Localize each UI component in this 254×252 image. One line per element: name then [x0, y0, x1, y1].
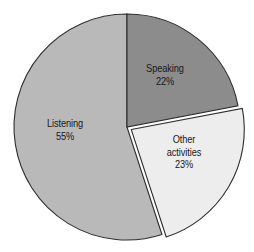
- pie-label-other-activities-name-line2: activities: [152, 146, 215, 159]
- pie-label-speaking-name: Speaking: [128, 62, 202, 75]
- pie-label-listening-value: 55%: [28, 130, 102, 143]
- pie-label-other-activities: Other activities 23%: [152, 133, 215, 171]
- pie-label-speaking-value: 22%: [128, 75, 202, 88]
- pie-label-listening-name: Listening: [28, 117, 102, 130]
- pie-label-other-activities-name-line1: Other: [152, 133, 215, 146]
- pie-chart: Speaking 22% Other activities 23% Listen…: [0, 0, 254, 252]
- pie-label-listening: Listening 55%: [28, 117, 102, 142]
- pie-label-other-activities-value: 23%: [152, 158, 215, 171]
- pie-label-speaking: Speaking 22%: [128, 62, 202, 87]
